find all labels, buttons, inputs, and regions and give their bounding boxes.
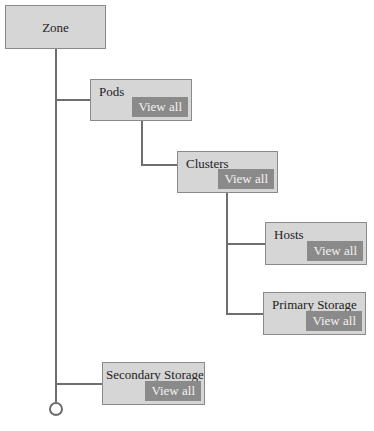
primary-storage-view-all-button[interactable]: View all	[306, 311, 362, 331]
pods-label: Pods	[99, 84, 124, 100]
zone-label: Zone	[6, 20, 105, 36]
hosts-view-all-button[interactable]: View all	[307, 241, 363, 261]
primary-storage-node: Primary Storage View all	[263, 292, 366, 335]
zone-node[interactable]: Zone	[5, 5, 106, 49]
clusters-view-all-button[interactable]: View all	[218, 169, 274, 189]
connector-zone-trunk	[55, 49, 57, 402]
connector-pods-trunk	[141, 120, 143, 165]
connector-clusters-to-primary	[226, 313, 264, 315]
connector-zone-to-secondary	[55, 383, 103, 385]
connector-clusters-trunk	[226, 193, 228, 315]
hosts-node: Hosts View all	[265, 222, 367, 265]
secondary-storage-view-all-button[interactable]: View all	[145, 381, 201, 401]
pods-node: Pods View all	[90, 79, 192, 121]
hosts-label: Hosts	[274, 227, 304, 243]
connector-zone-to-pods	[55, 99, 91, 101]
connector-clusters-to-hosts	[226, 243, 266, 245]
clusters-node: Clusters View all	[177, 151, 278, 193]
pods-view-all-button[interactable]: View all	[132, 97, 188, 117]
secondary-storage-node: Secondary Storage View all	[102, 362, 205, 405]
tree-end-circle-icon	[49, 402, 63, 416]
connector-pods-to-clusters	[141, 164, 178, 166]
